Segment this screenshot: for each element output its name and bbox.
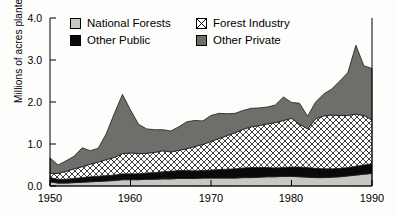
plot-area	[0, 0, 395, 217]
chart-figure: Millions of acres planted 4.0 3.0 2.0 1.…	[0, 0, 395, 217]
stacked-areas	[50, 45, 372, 186]
